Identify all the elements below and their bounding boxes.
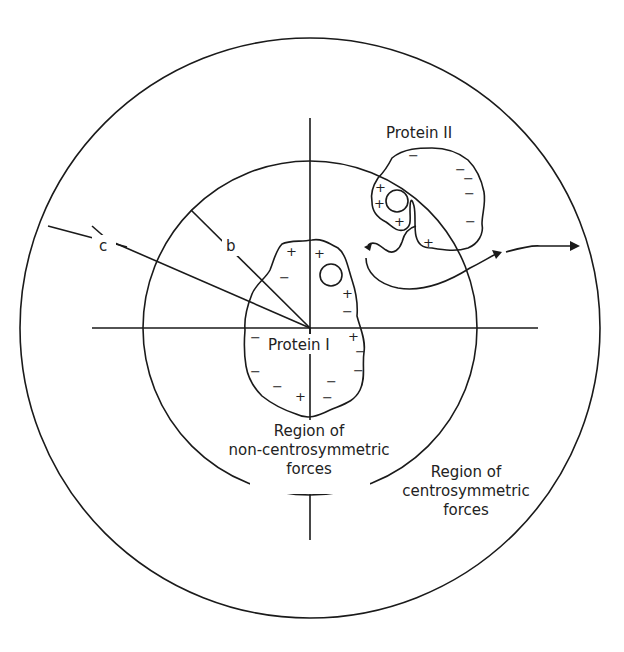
protein-2-active-site — [386, 190, 408, 212]
svg-text:Region of: Region of — [274, 422, 345, 440]
trajectory-3-arrowhead — [570, 241, 580, 251]
svg-text:+: + — [286, 244, 297, 259]
svg-text:forces: forces — [443, 501, 489, 519]
svg-text:−: − — [342, 304, 353, 319]
svg-text:−: − — [380, 173, 391, 188]
svg-text:−: − — [250, 364, 261, 379]
outer-region-label: Region of centrosymmetric forces — [402, 463, 530, 519]
svg-text:+: + — [314, 246, 325, 261]
diffusion-trajectory-3 — [506, 246, 572, 252]
svg-text:−: − — [463, 171, 474, 186]
svg-text:−: − — [353, 363, 364, 378]
svg-text:−: − — [464, 186, 475, 201]
svg-text:−: − — [355, 344, 366, 359]
svg-text:−: − — [465, 214, 476, 229]
svg-text:+: + — [394, 214, 405, 229]
svg-text:+: + — [348, 329, 359, 344]
svg-text:−: − — [322, 390, 333, 405]
radius-b-line — [191, 210, 310, 328]
protein-1-label: Protein I — [268, 336, 330, 354]
svg-text:non-centrosymmetric: non-centrosymmetric — [228, 441, 389, 459]
svg-text:+: + — [374, 196, 385, 211]
svg-text:−: − — [279, 270, 290, 285]
diffusion-trajectory-2 — [366, 254, 496, 289]
svg-text:−: − — [250, 330, 261, 345]
svg-text:−: − — [326, 374, 337, 389]
svg-text:centrosymmetric: centrosymmetric — [402, 482, 530, 500]
svg-text:Region of: Region of — [431, 463, 502, 481]
svg-text:forces: forces — [286, 460, 332, 478]
svg-text:−: − — [272, 379, 283, 394]
svg-text:−: − — [408, 148, 419, 163]
protein-2-label: Protein II — [386, 124, 452, 142]
svg-text:+: + — [342, 286, 353, 301]
radius-c-label: c — [99, 237, 107, 255]
svg-text:+: + — [295, 389, 306, 404]
diffusion-trajectory-1 — [368, 226, 416, 252]
radius-b-label: b — [226, 237, 236, 255]
protein-interaction-diagram: c b + + + + + − − − − − − − − − Protein … — [0, 0, 624, 652]
svg-text:+: + — [423, 235, 434, 250]
protein-1-active-site — [320, 264, 342, 286]
